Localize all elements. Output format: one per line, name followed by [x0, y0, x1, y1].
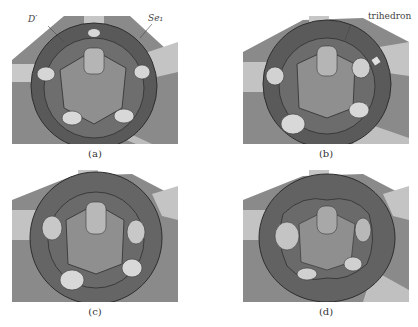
caption-b: (b)	[296, 148, 356, 159]
caption-c: (c)	[65, 306, 125, 317]
mesh-render-a	[12, 12, 178, 144]
mesh-render-b	[243, 12, 409, 144]
mesh-render-c	[12, 170, 178, 302]
annotation-trihedron: trihedron	[368, 11, 411, 21]
caption-d: (d)	[296, 306, 356, 317]
panel-a	[12, 12, 178, 144]
mesh-render-d	[243, 170, 409, 302]
annotation-d-prime: D′	[28, 14, 37, 24]
panel-b	[243, 12, 409, 144]
panel-d	[243, 170, 409, 302]
annotation-se1: Se₁	[148, 13, 163, 23]
caption-a: (a)	[65, 148, 125, 159]
panel-c	[12, 170, 178, 302]
